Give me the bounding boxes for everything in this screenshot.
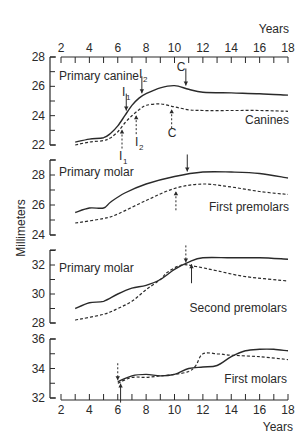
arrow-head-icon [169,109,173,113]
y-tick-label: 36 [32,332,46,346]
arrow-head-icon [140,89,144,93]
panels: 22242628242628283032323436 [32,50,288,405]
y-tick-label: 28 [32,316,46,330]
panel2-right-label: First premolars [209,200,289,214]
annotation-c-dashed: C [168,126,177,140]
annotation-subscript: 2 [139,143,144,152]
panel3-left-label: Primary molar [59,261,134,275]
x-tick-label: 6 [114,403,121,417]
arrow-head-icon [185,167,189,171]
y-axis-title: Millimeters [14,199,28,256]
panel1-left-label: Primary canine [59,69,139,83]
x-tick-label: 18 [281,41,295,55]
annotation-letter: I [135,135,138,149]
x-tick-label: 16 [253,403,267,417]
arrow-head-icon [134,115,138,119]
y-tick-label: 24 [32,228,46,242]
y-tick-label: 34 [32,362,46,376]
x-tick-label: 4 [86,403,93,417]
x-tick-label: 4 [86,41,93,55]
x-tick-label: 16 [253,41,267,55]
arrow-head-icon [116,376,120,380]
annotation-letter: I [119,149,122,163]
y-tick-label: 32 [32,258,46,272]
annotation-letter: I [139,67,142,81]
y-tick-label: 26 [32,198,46,212]
x-tick-label: 12 [196,41,210,55]
bottom-x-axis-title: Years [263,420,293,434]
y-tick-label: 22 [32,138,46,152]
annotation-letter: I [122,85,125,99]
arrow-head-icon [184,82,188,86]
arrow-head-icon [118,384,122,388]
annotation-c-solid: C [177,60,186,74]
x-tick-label: 12 [196,403,210,417]
panel-second-premolars: 283032 [32,245,288,330]
y-tick-label: 32 [32,391,46,405]
annotation-i1-solid: I 1 [122,85,131,102]
y-tick-label: 24 [32,109,46,123]
panel3-right-label: Second premolars [190,301,287,315]
panel1-right-label: Canines [245,113,289,127]
y-tick-label: 28 [32,50,46,64]
tooth-growth-chart: 24681012141618 Years 24681012141618 Year… [0,0,308,441]
x-tick-label: 8 [143,41,150,55]
x-tick-label: 14 [225,403,239,417]
x-tick-label: 2 [58,403,65,417]
annotation-subscript: 2 [143,75,148,84]
bottom-x-axis: 24681012141618 [58,394,295,417]
annotation-subscript: 1 [123,157,128,166]
x-tick-label: 2 [58,41,65,55]
annotation-subscript: 1 [126,93,131,102]
top-x-axis-title: Years [259,22,289,36]
x-tick-label: 14 [225,41,239,55]
x-tick-label: 10 [168,403,182,417]
arrow-head-icon [174,191,178,195]
y-tick-label: 30 [32,287,46,301]
x-tick-label: 10 [168,41,182,55]
annotation-i2-solid: I 2 [139,67,148,84]
annotation-i1-dashed: I 1 [119,149,128,166]
y-tick-label: 26 [32,79,46,93]
panel4-right-label: First molars [224,372,287,386]
arrow-head-icon [184,258,188,262]
panel2-left-label: Primary molar [59,165,134,179]
annotation-i2-dashed: I 2 [135,135,144,152]
x-tick-label: 6 [114,41,121,55]
y-tick-label: 28 [32,168,46,182]
arrow-head-icon [120,130,124,134]
x-tick-label: 8 [143,403,150,417]
panel-canines: 22242628 [32,50,288,152]
x-tick-label: 18 [281,403,295,417]
